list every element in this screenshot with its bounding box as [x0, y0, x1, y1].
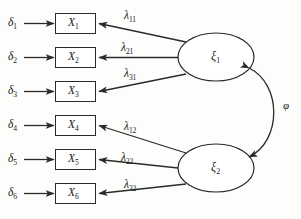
error-arrows: [24, 24, 54, 194]
loading-label-lambda11: λ11: [124, 10, 136, 24]
arrow-xi2-to-x6: [99, 184, 186, 194]
loading-label-lambda12: λ12: [124, 121, 136, 135]
arrow-xi1-to-x3: [99, 74, 186, 92]
loading-label-lambda21: λ21: [121, 42, 133, 56]
covariance-arc: [249, 68, 274, 157]
indicator-label-x6: X6: [68, 187, 79, 201]
arrow-xi1-to-x1: [99, 24, 186, 43]
factor-label-xi1: ξ1: [211, 50, 220, 65]
error-label-delta1: δ1: [8, 17, 17, 31]
loading-label-lambda22: λ22: [121, 152, 133, 166]
arrow-phi-curve: [249, 68, 274, 157]
error-label-delta5: δ5: [8, 153, 17, 167]
diagram-canvas: [0, 0, 301, 219]
loading-arrows-xi1: [99, 24, 186, 92]
factor-label-xi2: ξ2: [211, 161, 220, 176]
loading-label-lambda32: λ32: [124, 179, 136, 193]
indicator-label-x1: X1: [68, 17, 79, 31]
arrow-xi2-to-x4: [99, 126, 186, 154]
sem-path-diagram: δ1 δ2 δ3 δ4 δ5 δ6 X1 X2 X3 X4 X5 X6 λ11 …: [0, 0, 301, 219]
indicator-label-x3: X3: [68, 85, 79, 99]
arrow-xi2-to-x5: [99, 160, 178, 169]
indicator-label-x4: X4: [68, 119, 79, 133]
covariance-label-phi: φ: [283, 100, 289, 111]
indicator-label-x2: X2: [68, 51, 79, 65]
loading-arrows-xi2: [99, 126, 186, 194]
error-label-delta4: δ4: [8, 119, 17, 133]
error-label-delta2: δ2: [8, 51, 17, 65]
indicator-label-x5: X5: [68, 153, 79, 167]
error-label-delta6: δ6: [8, 187, 17, 201]
loading-label-lambda31: λ31: [124, 68, 136, 82]
error-label-delta3: δ3: [8, 85, 17, 99]
